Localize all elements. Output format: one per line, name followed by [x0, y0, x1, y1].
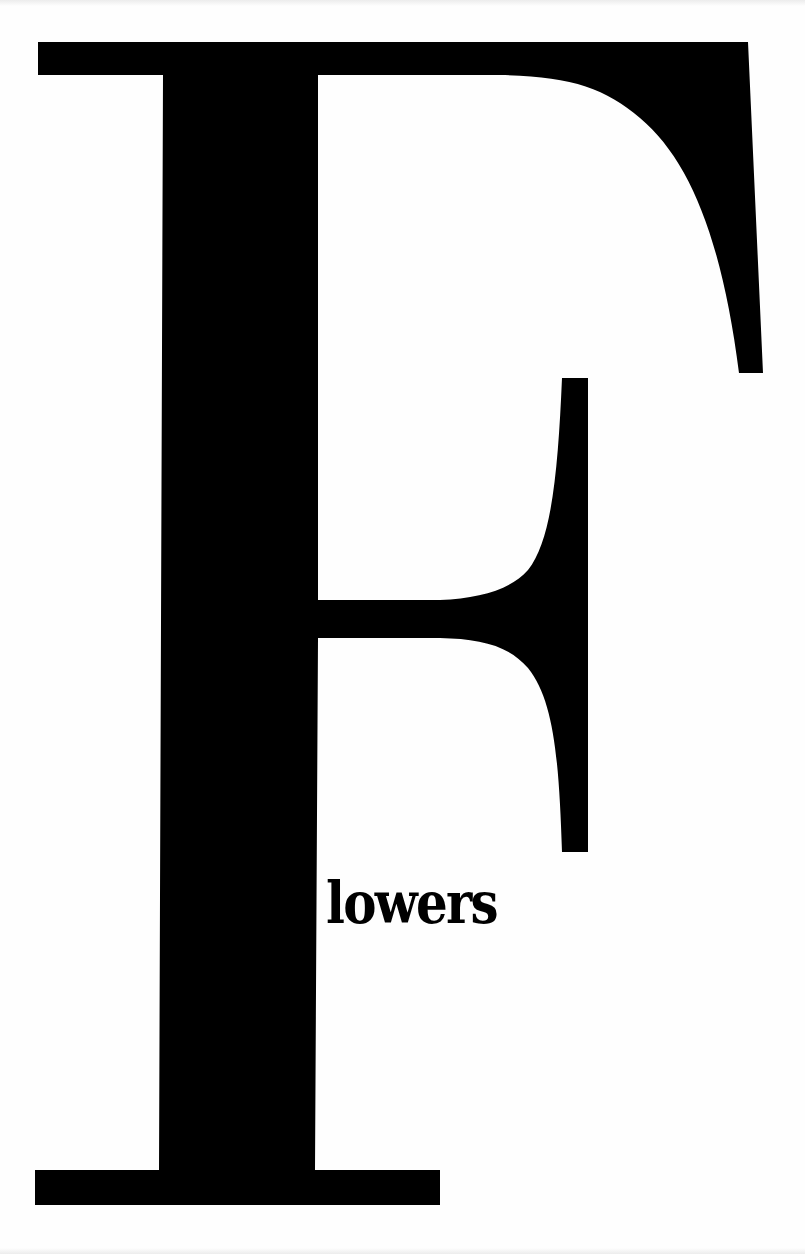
title-word-remainder: lowers	[326, 874, 497, 932]
drop-cap-f-icon: F	[0, 0, 805, 1254]
page-bottom-edge	[0, 1248, 805, 1254]
book-page: F lowers	[0, 0, 805, 1254]
